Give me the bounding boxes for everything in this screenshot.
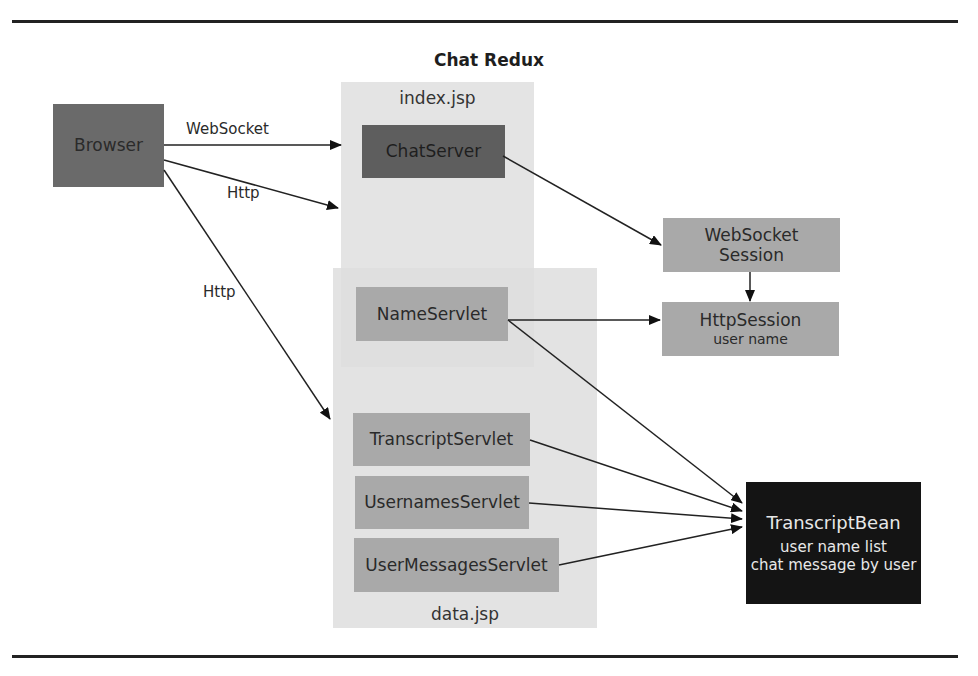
edge-label-http-2: Http <box>203 283 236 301</box>
edge-browser-data-http <box>164 170 330 419</box>
edge-chatserver-wssession <box>503 156 661 245</box>
edge-usernamesservlet-bean <box>529 503 742 519</box>
bottom-rule <box>12 655 958 658</box>
edge-label-http-1: Http <box>227 184 260 202</box>
edge-transcriptservlet-bean <box>530 440 742 511</box>
edge-nameservlet-bean <box>508 320 742 503</box>
edge-label-websocket: WebSocket <box>186 120 269 138</box>
edge-usermessagesservlet-bean <box>559 527 742 565</box>
edges-layer <box>0 0 978 676</box>
